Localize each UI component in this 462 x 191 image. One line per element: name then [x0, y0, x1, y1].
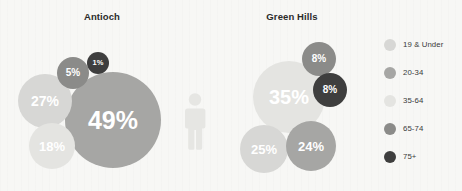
- group-title-antioch: Antioch: [42, 11, 162, 22]
- legend-item-75[interactable]: 75+: [384, 150, 462, 163]
- legend-item-65-74[interactable]: 65-74: [384, 122, 462, 135]
- bubble-green-hills-20-34[interactable]: 24%: [286, 121, 336, 171]
- legend-label: 65-74: [403, 124, 423, 133]
- bubble-label: 25%: [251, 142, 277, 155]
- bubble-antioch-35-64[interactable]: 18%: [29, 123, 75, 169]
- bubble-chart-panel: Antioch Green Hills 49%27%18%5%1% 35%25%…: [0, 0, 462, 191]
- legend-swatch-icon: [384, 95, 396, 107]
- legend-swatch-icon: [384, 123, 396, 135]
- group-title-green-hills: Green Hills: [232, 11, 352, 22]
- bubble-green-hills-19-under[interactable]: 25%: [240, 125, 288, 173]
- legend-label: 35-64: [403, 96, 423, 105]
- bubble-label: 8%: [323, 85, 337, 95]
- legend-item-35-64[interactable]: 35-64: [384, 94, 462, 107]
- bubble-antioch-65-74[interactable]: 5%: [57, 57, 89, 89]
- bubble-label: 18%: [39, 139, 65, 152]
- bubble-green-hills-65-74[interactable]: 8%: [302, 42, 336, 76]
- legend-item-19-under[interactable]: 19 & Under: [384, 38, 462, 51]
- legend-swatch-icon: [384, 151, 396, 163]
- bubble-label: 1%: [93, 59, 104, 67]
- bubble-label: 27%: [31, 94, 59, 108]
- legend-swatch-icon: [384, 67, 396, 79]
- person-icon: [182, 92, 208, 150]
- bubble-label: 35%: [269, 87, 309, 107]
- bubble-antioch-75-[interactable]: 1%: [87, 52, 109, 74]
- bubble-label: 49%: [88, 107, 138, 132]
- bubble-green-hills-75-[interactable]: 8%: [313, 73, 347, 107]
- legend: 19 & Under20-3435-6465-7475+: [384, 38, 462, 178]
- legend-item-20-34[interactable]: 20-34: [384, 66, 462, 79]
- bubble-label: 5%: [66, 68, 80, 78]
- bubble-label: 8%: [312, 54, 326, 64]
- legend-swatch-icon: [384, 39, 396, 51]
- legend-label: 75+: [403, 152, 417, 161]
- legend-label: 19 & Under: [403, 40, 443, 49]
- bubble-label: 24%: [298, 139, 324, 152]
- legend-label: 20-34: [403, 68, 423, 77]
